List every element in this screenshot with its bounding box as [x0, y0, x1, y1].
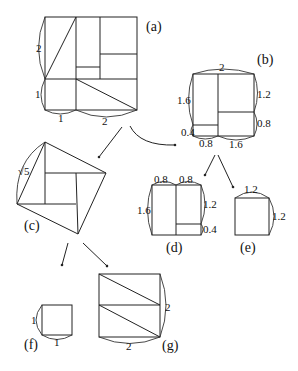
- label-a-bottom-right: 2: [102, 115, 108, 127]
- caption-a: (a): [146, 19, 162, 35]
- label-g-bottom: 2: [126, 340, 132, 352]
- label-a-left-upper: 2: [36, 42, 42, 54]
- panel-f: [36, 305, 72, 340]
- arrow-c-to-f: [62, 243, 68, 265]
- label-g-right: 2: [165, 301, 171, 313]
- arrow-b-to-d: [205, 155, 215, 175]
- label-d-right-lower: 0.4: [203, 223, 217, 235]
- label-c-side: √5: [18, 165, 30, 177]
- label-b-right-upper: 1.2: [257, 88, 271, 100]
- label-f-bottom: 1: [54, 336, 60, 348]
- label-a-left-lower: 1: [35, 88, 41, 100]
- arrow-c-to-g: [83, 243, 107, 266]
- label-b-bottom-right: 1.6: [229, 138, 243, 150]
- label-f-left: 1: [31, 314, 37, 326]
- panel-g: [99, 274, 166, 344]
- label-e-right: 1.2: [272, 210, 286, 222]
- arrow-a-to-b: [130, 126, 175, 145]
- label-b-left-upper: 1.6: [177, 94, 191, 106]
- panel-a: [39, 17, 138, 117]
- label-b-right-lower: 0.8: [257, 117, 271, 129]
- caption-b: (b): [257, 52, 274, 68]
- label-a-bottom-left: 1: [58, 112, 64, 124]
- caption-c: (c): [24, 218, 40, 234]
- dissection-diagram: 2 1 1 2 (a) 2 1.6 0.4 1.2 0.8 0.8 1.6 (b…: [0, 0, 298, 371]
- label-e-top: 1.2: [244, 183, 258, 195]
- caption-g: (g): [162, 338, 179, 354]
- caption-d: (d): [166, 240, 183, 256]
- panel-b: [189, 69, 258, 140]
- panel-e: [235, 192, 274, 235]
- label-b-top: 2: [219, 61, 225, 73]
- caption-f: (f): [24, 337, 38, 353]
- label-d-left: 1.6: [137, 204, 151, 216]
- arrow-b-to-e: [218, 155, 233, 187]
- caption-e: (e): [240, 240, 256, 256]
- label-d-top-left: 0.8: [154, 173, 168, 185]
- label-d-top-right: 0.8: [179, 173, 193, 185]
- label-b-left-lower: 0.4: [181, 126, 195, 138]
- panel-d: [148, 182, 206, 236]
- label-d-right-upper: 1.2: [203, 198, 217, 210]
- label-b-bottom-left: 0.8: [199, 137, 213, 149]
- arrow-a-to-c: [99, 127, 122, 157]
